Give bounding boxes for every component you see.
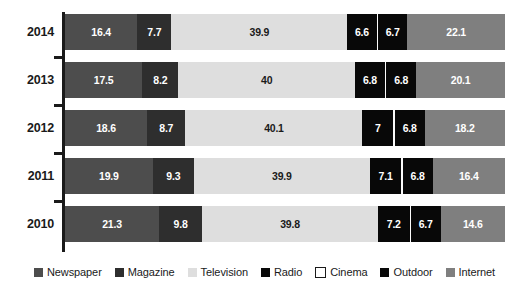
- legend-label: Television: [201, 266, 248, 278]
- bar-row: 201317.58.2406.86.820.1: [0, 62, 529, 98]
- bar-segment-newspaper: 21.3: [65, 206, 159, 242]
- bar-segment-newspaper: 19.9: [65, 158, 153, 194]
- bar-segment-magazine: 7.7: [137, 14, 171, 50]
- legend-label: Newspaper: [47, 266, 102, 278]
- legend-label: Magazine: [128, 266, 175, 278]
- axis-tick: [54, 152, 63, 155]
- bar-segment-internet: 16.4: [433, 158, 505, 194]
- bar-segment-radio: 7.1: [370, 158, 401, 194]
- bar-segment-magazine: 9.3: [153, 158, 194, 194]
- legend-item-magazine[interactable]: Magazine: [115, 266, 175, 278]
- bar-segment-radio: 7.2: [378, 206, 410, 242]
- year-axis-label: 2012: [0, 110, 54, 146]
- bar-segment-newspaper: 18.6: [65, 110, 147, 146]
- bar-row: 201021.39.839.87.26.714.6: [0, 206, 529, 242]
- axis-tick: [54, 104, 63, 107]
- bar-segment-magazine: 8.7: [147, 110, 185, 146]
- legend-item-newspaper[interactable]: Newspaper: [34, 266, 102, 278]
- legend-item-television[interactable]: Television: [188, 266, 248, 278]
- year-axis-label: 2010: [0, 206, 54, 242]
- legend-swatch-icon: [315, 267, 326, 278]
- year-axis-label: 2011: [0, 158, 54, 194]
- legend-label: Radio: [274, 266, 302, 278]
- legend-swatch-icon: [34, 268, 43, 277]
- bar-rows: 201416.47.739.96.66.722.1201317.58.2406.…: [0, 8, 529, 256]
- stacked-bar: 16.47.739.96.66.722.1: [65, 14, 505, 50]
- bar-segment-television: 40: [178, 62, 355, 98]
- bar-row: 201416.47.739.96.66.722.1: [0, 14, 529, 50]
- legend-label: Internet: [459, 266, 496, 278]
- bar-segment-television: 39.9: [171, 14, 347, 50]
- bar-segment-internet: 14.6: [441, 206, 505, 242]
- bar-segment-outdoor: 6.8: [386, 62, 416, 98]
- bar-segment-outdoor: 6.7: [378, 14, 408, 50]
- legend-label: Outdoor: [393, 266, 432, 278]
- bar-segment-radio: 6.8: [355, 62, 385, 98]
- bar-row: 201218.68.740.176.818.2: [0, 110, 529, 146]
- bar-segment-outdoor: 6.8: [403, 158, 433, 194]
- bar-segment-television: 40.1: [185, 110, 362, 146]
- stacked-bar: 19.99.339.97.16.816.4: [65, 158, 505, 194]
- legend-swatch-icon: [188, 268, 197, 277]
- plot-area: 201416.47.739.96.66.722.1201317.58.2406.…: [0, 8, 529, 256]
- year-axis-label: 2013: [0, 62, 54, 98]
- legend-item-cinema[interactable]: Cinema: [315, 266, 367, 278]
- chart-legend: NewspaperMagazineTelevisionRadioCinemaOu…: [0, 262, 529, 282]
- legend-swatch-icon: [380, 268, 389, 277]
- year-axis-label: 2014: [0, 14, 54, 50]
- legend-swatch-icon: [261, 268, 270, 277]
- stacked-bar: 17.58.2406.86.820.1: [65, 62, 505, 98]
- bar-segment-radio: 6.6: [347, 14, 376, 50]
- legend-item-radio[interactable]: Radio: [261, 266, 302, 278]
- bar-segment-internet: 20.1: [416, 62, 505, 98]
- bar-segment-radio: 7: [362, 110, 393, 146]
- bar-segment-internet: 18.2: [425, 110, 505, 146]
- bar-segment-outdoor: 6.8: [395, 110, 425, 146]
- bar-segment-television: 39.8: [202, 206, 378, 242]
- bar-segment-magazine: 8.2: [142, 62, 178, 98]
- legend-swatch-icon: [115, 268, 124, 277]
- bar-segment-internet: 22.1: [407, 14, 505, 50]
- bar-segment-magazine: 9.8: [159, 206, 202, 242]
- stacked-bar: 21.39.839.87.26.714.6: [65, 206, 505, 242]
- legend-item-internet[interactable]: Internet: [446, 266, 496, 278]
- bar-segment-television: 39.9: [194, 158, 370, 194]
- bar-row: 201119.99.339.97.16.816.4: [0, 158, 529, 194]
- legend-swatch-icon: [446, 268, 455, 277]
- legend-label: Cinema: [330, 266, 367, 278]
- bar-segment-newspaper: 16.4: [65, 14, 137, 50]
- bar-segment-newspaper: 17.5: [65, 62, 142, 98]
- bar-segment-outdoor: 6.7: [411, 206, 441, 242]
- legend-item-outdoor[interactable]: Outdoor: [380, 266, 432, 278]
- axis-tick: [54, 56, 63, 59]
- stacked-bar: 18.68.740.176.818.2: [65, 110, 505, 146]
- stacked-bar-chart: 201416.47.739.96.66.722.1201317.58.2406.…: [0, 0, 529, 293]
- axis-tick: [54, 200, 63, 203]
